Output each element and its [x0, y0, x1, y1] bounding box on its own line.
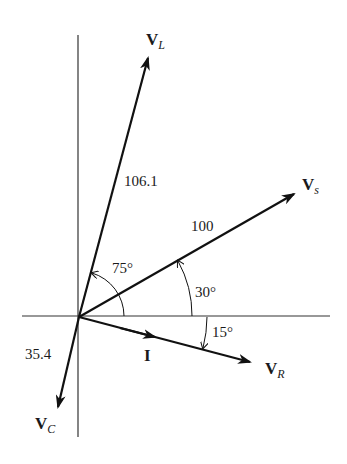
label-I: I: [144, 346, 151, 365]
angle-arc-30: [178, 261, 192, 316]
magnitude-Vs: 100: [191, 218, 214, 234]
phasor-I: [120, 328, 155, 337]
label-VC: VC: [35, 414, 56, 436]
magnitude-VL: 106.1: [124, 173, 158, 189]
phasor-diagram: VL Vs VR VC I 106.1 100 35.4 75° 30° 15°: [0, 0, 347, 464]
angle-arc-15: [203, 317, 207, 348]
angle-label-75: 75°: [112, 260, 133, 276]
phasor-VC: [58, 317, 79, 407]
label-VL: VL: [146, 30, 165, 52]
magnitude-VC: 35.4: [25, 346, 52, 362]
label-Vs: Vs: [302, 175, 319, 197]
angle-label-30: 30°: [195, 284, 216, 300]
label-VR: VR: [265, 359, 285, 381]
phasor-Vs: [79, 194, 294, 317]
angle-label-15: 15°: [212, 324, 233, 340]
